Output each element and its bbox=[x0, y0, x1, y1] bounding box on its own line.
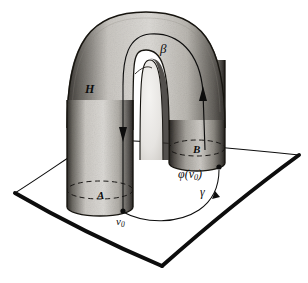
label-image-point-prefix: φ(v bbox=[178, 167, 194, 181]
label-gamma: γ bbox=[200, 186, 205, 198]
label-basepoint: v0 bbox=[116, 216, 125, 228]
label-base-left: A bbox=[97, 190, 104, 201]
basepoint-v0-dot bbox=[120, 208, 125, 213]
basepoint-phi-v0-dot bbox=[216, 164, 221, 169]
label-base-right: B bbox=[193, 144, 200, 155]
label-image-point-suffix: ) bbox=[198, 167, 202, 181]
label-basepoint-subscript: 0 bbox=[121, 220, 125, 229]
label-image-point: φ(v0) bbox=[178, 168, 202, 182]
diagram-canvas bbox=[0, 0, 308, 283]
label-beta: β bbox=[160, 42, 166, 55]
label-handle: H bbox=[85, 83, 94, 95]
handle-diagram: H β A B γ v0 φ(v0) bbox=[0, 0, 308, 283]
